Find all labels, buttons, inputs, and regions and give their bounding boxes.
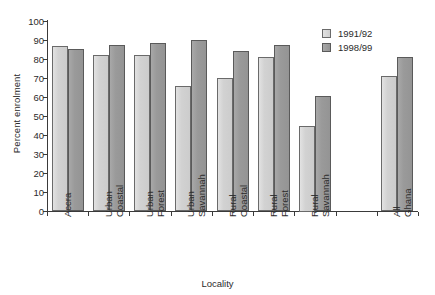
x-axis-title: Locality — [0, 278, 435, 289]
category-label-accra: Accra — [63, 193, 74, 217]
x-tick-mark-3 — [171, 212, 172, 216]
y-tick-label-30: 30 — [0, 149, 44, 160]
y-tick-mark-60 — [43, 97, 47, 98]
category-label-rural-forest: RuralForest — [269, 190, 290, 217]
x-tick-mark-4 — [212, 212, 213, 216]
y-tick-mark-30 — [43, 154, 47, 155]
bar-rural-forest-1991-92 — [258, 57, 274, 211]
x-tick-mark-7 — [336, 212, 337, 216]
legend-label-1991-92: 1991/92 — [338, 28, 372, 39]
x-tick-mark-2 — [129, 212, 130, 216]
y-tick-mark-70 — [43, 78, 47, 79]
y-tick-mark-50 — [43, 116, 47, 117]
y-axis-line — [47, 20, 48, 212]
legend: 1991/92 1998/99 — [322, 26, 372, 54]
y-tick-label-60: 60 — [0, 92, 44, 103]
y-tick-label-10: 10 — [0, 187, 44, 198]
category-label-urban-savannah: UrbanSavannah — [186, 174, 207, 217]
x-tick-mark-6 — [294, 212, 295, 216]
y-tick-mark-90 — [43, 40, 47, 41]
category-label-rural-coastal: RuralCoastal — [228, 185, 249, 217]
y-tick-label-0: 0 — [0, 206, 44, 217]
y-tick-label-40: 40 — [0, 130, 44, 141]
x-tick-mark-0 — [47, 212, 48, 216]
y-tick-label-100: 100 — [0, 16, 44, 27]
y-tick-mark-80 — [43, 59, 47, 60]
legend-item-1998-99: 1998/99 — [322, 40, 372, 54]
bar-chart: Percent enrolment 0102030405060708090100… — [0, 0, 435, 295]
category-label-urban-coastal: UrbanCoastal — [104, 185, 125, 217]
legend-item-1991-92: 1991/92 — [322, 26, 372, 40]
bar-accra-1998-99 — [68, 49, 84, 211]
category-label-all-ghana: AllGhana — [392, 188, 413, 217]
x-tick-mark-8 — [377, 212, 378, 216]
x-tick-mark-9 — [418, 212, 419, 216]
legend-label-1998-99: 1998/99 — [338, 42, 372, 53]
y-tick-mark-20 — [43, 173, 47, 174]
bar-rural-forest-1998-99 — [274, 45, 290, 211]
category-label-urban-forest: UrbanForest — [145, 190, 166, 217]
y-tick-mark-100 — [43, 21, 47, 22]
y-tick-label-90: 90 — [0, 35, 44, 46]
bar-urban-forest-1991-92 — [134, 55, 150, 211]
bar-urban-forest-1998-99 — [150, 43, 166, 211]
y-tick-label-80: 80 — [0, 54, 44, 65]
y-tick-mark-10 — [43, 192, 47, 193]
x-tick-mark-1 — [88, 212, 89, 216]
x-tick-mark-5 — [253, 212, 254, 216]
y-tick-label-50: 50 — [0, 111, 44, 122]
y-tick-mark-40 — [43, 135, 47, 136]
legend-swatch-icon-1991-92 — [322, 29, 331, 38]
bar-accra-1991-92 — [52, 46, 68, 211]
category-label-rural-savannah: RuralSavannah — [310, 174, 331, 217]
y-tick-label-70: 70 — [0, 73, 44, 84]
legend-swatch-icon-1998-99 — [322, 43, 331, 52]
y-tick-label-20: 20 — [0, 168, 44, 179]
